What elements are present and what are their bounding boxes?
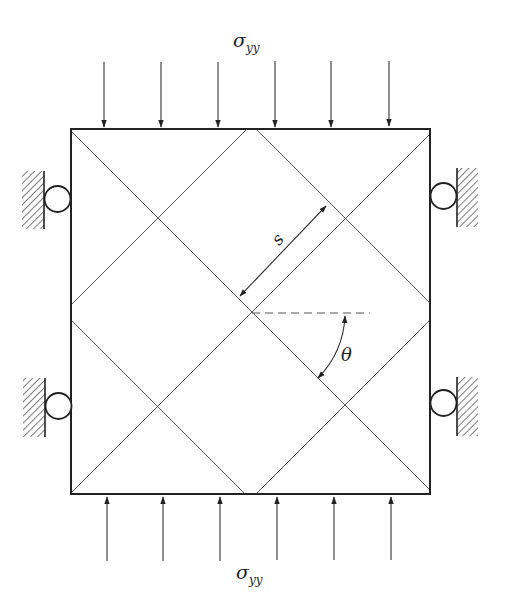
top-load-arrows [104,61,389,127]
wall-hatch-icon [457,168,478,227]
svg-text:σyy: σyy [233,29,260,55]
compression-diagram: σyy θ s [0,0,505,603]
roller-support-left-lower [23,378,72,437]
grid-line [71,320,245,494]
roller-icon [431,183,457,209]
roller-icon [46,393,72,419]
top-stress-label: σyy [233,29,260,55]
roller-icon [431,390,457,416]
roller-support-right-lower [431,377,479,436]
angle-label: θ [341,344,352,365]
wall-hatch-icon [23,378,45,437]
spacing-label: s [267,229,288,249]
roller-support-left-upper [22,171,71,229]
svg-text:σyy: σyy [236,561,263,587]
grid-line [256,129,430,303]
bottom-stress-label: σyy [236,561,263,587]
grid-line [71,129,435,493]
grid-line [71,129,247,305]
roller-support-right-upper [431,168,479,227]
wall-hatch-icon [457,377,478,436]
bottom-load-arrows [107,497,391,561]
wall-hatch-icon [22,171,44,229]
roller-icon [45,186,71,212]
diagonal-grid [71,129,435,494]
